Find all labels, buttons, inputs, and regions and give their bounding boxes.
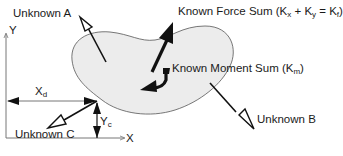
unknown-b-arrowhead: [239, 109, 254, 129]
unknown-c-arrow-shaft: [64, 101, 97, 120]
xd-left-arrowhead: [7, 97, 19, 105]
known-moment-tab: [163, 68, 170, 74]
unknown-a-label: Unknown A: [13, 8, 71, 20]
xd-right-arrowhead: [84, 97, 97, 105]
known-force-label: Known Force Sum (Kx + Ky = Kf): [178, 6, 343, 19]
unknown-b-label: Unknown B: [257, 114, 316, 126]
yc-top-arrowhead: [93, 102, 101, 114]
known-force-text-eq: = K: [316, 5, 337, 17]
y-axis-label: Y: [9, 25, 17, 37]
xd-text: X: [35, 85, 43, 97]
known-moment-text-end: ): [300, 62, 304, 74]
unknown-c-arrowhead: [48, 115, 66, 128]
yc-sub: c: [108, 120, 112, 129]
unknown-b-arrow-shaft: [210, 83, 236, 112]
unknown-c-label: Unknown C: [15, 129, 74, 141]
xd-sub: d: [43, 90, 47, 99]
xd-label: Xd: [35, 86, 47, 99]
yc-text: Y: [100, 115, 108, 127]
known-force-text-end: ): [339, 5, 343, 17]
known-force-text-mid: + K: [291, 5, 312, 17]
unknown-a-arrowhead: [80, 17, 92, 31]
x-axis-label: X: [126, 133, 134, 145]
known-force-text: Known Force Sum (K: [178, 5, 287, 17]
known-moment-label: Known Moment Sum (Km): [172, 63, 304, 76]
known-moment-text: Known Moment Sum (K: [172, 62, 293, 74]
yc-label: Yc: [100, 116, 112, 129]
